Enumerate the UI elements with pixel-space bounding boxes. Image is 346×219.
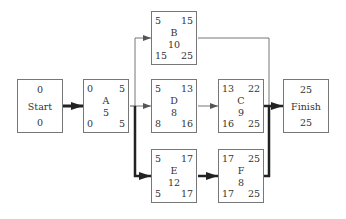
c-ls: 16 [222, 119, 234, 129]
f-ef: 25 [248, 154, 260, 164]
f-lf: 25 [248, 189, 260, 199]
a-duration: 5 [84, 108, 128, 118]
c-label: C [219, 96, 263, 106]
f-duration: 8 [219, 178, 263, 188]
network-diagram: 0 Start 0 0 5 A 5 0 5 5 15 B 10 15 25 5 … [0, 0, 346, 219]
a-es: 0 [87, 84, 93, 94]
start-label: Start [18, 102, 62, 112]
a-ef: 5 [119, 84, 125, 94]
b-ef: 15 [181, 16, 193, 26]
node-c: 13 22 C 9 16 25 [218, 79, 264, 133]
e-es: 5 [155, 154, 161, 164]
start-top-value: 0 [18, 85, 62, 95]
e-lf: 17 [181, 189, 193, 199]
finish-label: Finish [284, 102, 328, 112]
f-es: 17 [222, 154, 234, 164]
b-ls: 15 [155, 51, 167, 61]
b-duration: 10 [152, 40, 196, 50]
a-lf: 5 [119, 119, 125, 129]
node-e: 5 17 E 12 5 17 [151, 149, 197, 203]
node-finish: 25 Finish 25 [283, 79, 329, 133]
d-ls: 8 [155, 119, 161, 129]
d-label: D [152, 96, 196, 106]
node-b: 5 15 B 10 15 25 [151, 11, 197, 65]
a-ls: 0 [87, 119, 93, 129]
e-ls: 5 [155, 189, 161, 199]
node-start: 0 Start 0 [17, 79, 63, 133]
f-ls: 17 [222, 189, 234, 199]
d-es: 5 [155, 84, 161, 94]
c-lf: 25 [248, 119, 260, 129]
c-ef: 22 [248, 84, 260, 94]
a-label: A [84, 96, 128, 106]
edge-f-finish [264, 106, 269, 176]
b-es: 5 [155, 16, 161, 26]
d-duration: 8 [152, 108, 196, 118]
start-bottom-value: 0 [18, 118, 62, 128]
c-duration: 9 [219, 108, 263, 118]
edge-a-b [135, 38, 151, 106]
finish-bottom-value: 25 [284, 118, 328, 128]
d-lf: 16 [181, 119, 193, 129]
d-ef: 13 [181, 84, 193, 94]
finish-top-value: 25 [284, 85, 328, 95]
f-label: F [219, 166, 263, 176]
b-label: B [152, 28, 196, 38]
edge-a-e [135, 106, 151, 176]
e-duration: 12 [152, 178, 196, 188]
node-a: 0 5 A 5 0 5 [83, 79, 129, 133]
b-lf: 25 [181, 51, 193, 61]
e-label: E [152, 166, 196, 176]
node-d: 5 13 D 8 8 16 [151, 79, 197, 133]
node-f: 17 25 F 8 17 25 [218, 149, 264, 203]
c-es: 13 [222, 84, 234, 94]
e-ef: 17 [181, 154, 193, 164]
